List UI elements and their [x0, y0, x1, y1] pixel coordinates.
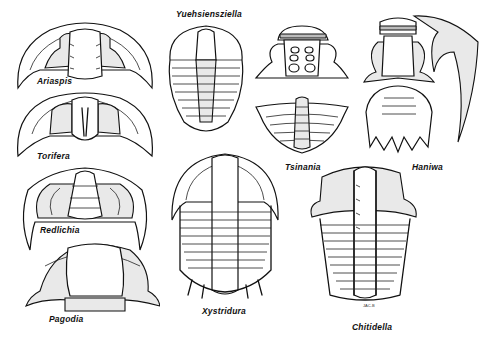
label-redlichia: Redlichia	[40, 225, 80, 235]
chitidella-drawing	[300, 155, 430, 305]
label-chitidella: Chitidella	[352, 322, 392, 332]
haniwa-drawing	[358, 12, 483, 162]
label-yuehsiensziella: Yuehsiensziella	[176, 9, 242, 19]
yuehsiensziella-drawing	[166, 22, 246, 137]
label-xystridura: Xystridura	[202, 306, 246, 316]
ariaspis-drawing	[10, 18, 160, 93]
trilobite-plate: Ariaspis Torifera Redlichia P	[0, 0, 488, 342]
xystridura-drawing	[168, 150, 283, 300]
tsinania-pygidium-drawing	[252, 95, 352, 155]
torifera-drawing	[10, 88, 160, 158]
tsinania-cephalon-drawing	[252, 22, 352, 82]
label-pagodia: Pagodia	[49, 314, 83, 324]
pagodia-drawing	[20, 236, 160, 316]
artist-initials: JAC-B	[363, 303, 375, 308]
label-ariaspis: Ariaspis	[37, 76, 72, 86]
